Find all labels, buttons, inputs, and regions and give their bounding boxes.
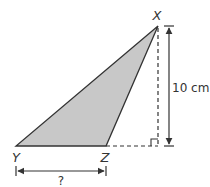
right-angle-marker: [151, 139, 158, 146]
vertex-label-z: Z: [100, 150, 111, 165]
vertex-label-y: Y: [12, 150, 21, 165]
triangle-diagram: X Y Z 10 cm ?: [0, 0, 210, 187]
vertex-label-x: X: [152, 8, 163, 23]
triangle-xyz: [16, 26, 158, 146]
base-unknown-label: ?: [58, 174, 64, 187]
height-label: 10 cm: [172, 81, 209, 95]
